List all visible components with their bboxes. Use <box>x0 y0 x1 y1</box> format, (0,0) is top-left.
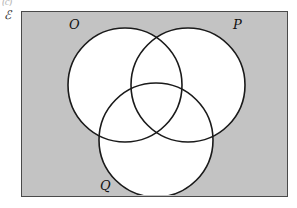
venn-circles-group <box>0 0 297 208</box>
set-label-p: P <box>233 17 242 32</box>
set-label-o: O <box>69 17 80 32</box>
set-label-q: Q <box>100 178 111 193</box>
figure-canvas: (c) ℰ O P Q <box>0 0 297 208</box>
